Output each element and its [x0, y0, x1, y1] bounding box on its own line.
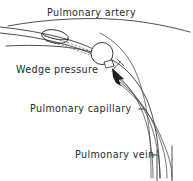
pulmonary-capillary-branch-1	[118, 76, 153, 178]
pulmonary-artery-upper-wall	[8, 19, 190, 32]
pulmonary-capillary-branch-2	[119, 79, 160, 178]
label-pulmonary-capillary: Pulmonary capillary	[30, 103, 132, 114]
label-pulmonary-artery: Pulmonary artery	[47, 7, 136, 18]
label-pulmonary-vein: Pulmonary vein	[75, 149, 154, 160]
label-wedge-pressure: Wedge pressure	[16, 64, 98, 75]
pulmonary-wedge-pressure-diagram: Pulmonary artery Wedge pressure Pulmonar…	[0, 0, 193, 181]
diagram-canvas: Pulmonary artery Wedge pressure Pulmonar…	[0, 0, 193, 181]
catheter-shaft-upper-line	[0, 27, 97, 51]
